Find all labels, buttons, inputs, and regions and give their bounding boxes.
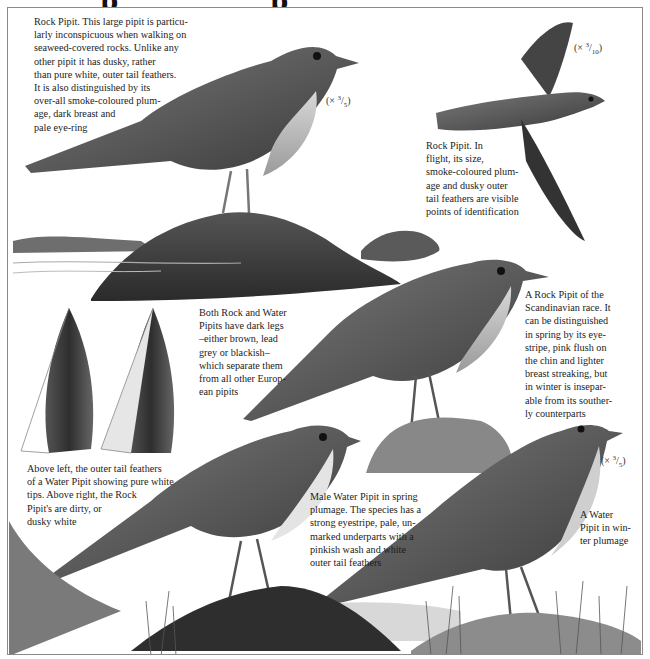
caption-scandinavian-race: A Rock Pipit of the Scandinavian race. I… (525, 288, 643, 420)
scale-suffix: ) (347, 95, 350, 106)
scale-label-perched-rock-pipit: (× 3/5) (326, 94, 351, 109)
title-glyph: p (100, 0, 118, 7)
caption-water-pipit-winter: A Water Pipit in win- ter plumage (580, 508, 643, 548)
title-glyph: p (270, 0, 288, 7)
scale-label-flight-rock-pipit: (× 3/10) (574, 41, 602, 56)
scale-prefix: (× (574, 42, 583, 53)
caption-male-water-pipit: Male Water Pipit in spring plumage. The … (310, 490, 460, 569)
scale-prefix: (× (326, 95, 335, 106)
caption-legs-note: Both Rock and Water Pipits have dark leg… (199, 306, 309, 398)
caption-tail-feathers: Above left, the outer tail feathers of a… (27, 462, 207, 528)
scale-label-winter-water-pipit: (× 3/5) (601, 454, 626, 469)
scale-numerator: 3 (337, 94, 341, 102)
scale-suffix: ) (622, 455, 625, 466)
seaweed-rocks-illustration (13, 212, 439, 301)
scale-numerator: 3 (585, 41, 589, 49)
illustration-plate: Rock Pipit. This large pipit is particu-… (7, 7, 643, 655)
scale-denominator: 10 (592, 48, 599, 56)
scale-numerator: 3 (612, 454, 616, 462)
scale-suffix: ) (599, 42, 602, 53)
caption-rock-pipit-perched: Rock Pipit. This large pipit is particu-… (34, 15, 224, 134)
tail-feathers-illustration (21, 308, 174, 453)
caption-rock-pipit-flight: Rock Pipit. In flight, its size, smoke-c… (426, 139, 561, 218)
page-title-fragment: p p (0, 0, 650, 7)
scale-prefix: (× (601, 455, 610, 466)
